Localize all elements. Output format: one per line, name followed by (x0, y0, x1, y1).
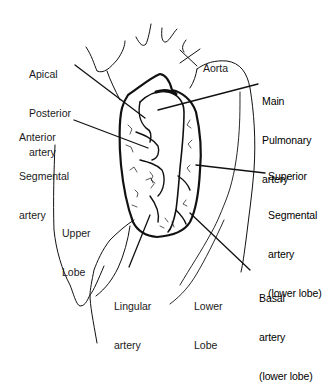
left-vessel-contour (86, 41, 125, 72)
vessel-stub-3 (183, 40, 186, 52)
basal-branch (176, 210, 186, 224)
tissue-texture (126, 120, 192, 228)
label-lower-lobe: Lower Lobe (194, 274, 223, 378)
label-aorta: Aorta (203, 36, 228, 101)
left-vessel-lower (107, 71, 120, 100)
hilum-outline (120, 74, 201, 237)
lingular-branch (150, 196, 159, 222)
vessel-stub-2 (162, 28, 177, 42)
label-upper-lobe: Upper Lobe (62, 201, 91, 305)
anterior-segmental-leader (74, 120, 148, 148)
vessel-stub-1 (136, 24, 151, 45)
anterior-branch (136, 132, 159, 160)
label-basal-artery: Basal artery (lower lobe) (259, 266, 313, 386)
label-lingular-artery: Lingular artery (114, 274, 151, 378)
lingular-leader (129, 215, 150, 267)
basal-leader (190, 213, 250, 270)
superior-segmental-branch (178, 176, 190, 190)
aorta-inner (190, 69, 197, 88)
